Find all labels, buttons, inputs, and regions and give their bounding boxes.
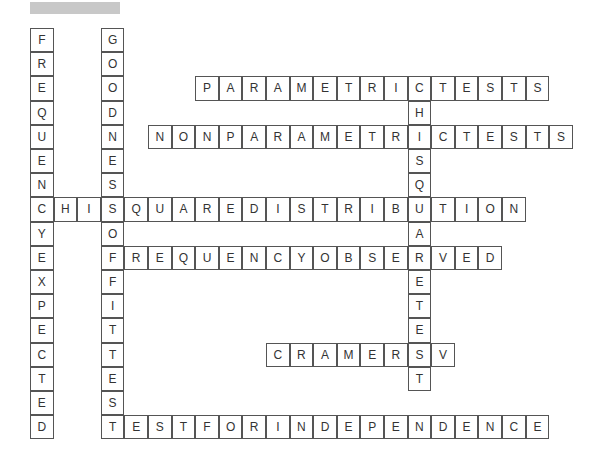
crossword-cell: E	[148, 246, 172, 270]
crossword-cell: O	[313, 246, 337, 270]
crossword-cell: T	[101, 343, 125, 367]
crossword-cell: E	[455, 76, 479, 100]
crossword-cell: C	[266, 343, 290, 367]
crossword-cell: E	[408, 270, 432, 294]
crossword-cell: I	[455, 197, 479, 221]
crossword-cell: S	[526, 76, 550, 100]
crossword-cell: E	[219, 246, 243, 270]
crossword-cell: E	[30, 318, 54, 342]
crossword-cell: E	[337, 415, 361, 439]
crossword-cell: R	[384, 343, 408, 367]
crossword-cell: N	[30, 173, 54, 197]
crossword-cell: N	[290, 415, 314, 439]
crossword-cell: S	[502, 125, 526, 149]
crossword-cell: T	[360, 125, 384, 149]
crossword-cell: O	[172, 125, 196, 149]
crossword-cell: M	[337, 343, 361, 367]
crossword-cell: F	[30, 28, 54, 52]
crossword-cell: D	[30, 415, 54, 439]
crossword-cell: I	[266, 197, 290, 221]
crossword-cell: R	[30, 52, 54, 76]
crossword-cell: E	[101, 149, 125, 173]
crossword-cell: E	[337, 125, 361, 149]
crossword-cell: T	[313, 197, 337, 221]
crossword-cell: P	[360, 415, 384, 439]
crossword-cell: E	[455, 246, 479, 270]
crossword-cell: Q	[30, 101, 54, 125]
crossword-cell: E	[101, 367, 125, 391]
crossword-cell: E	[384, 415, 408, 439]
crossword-cell: Y	[290, 246, 314, 270]
crossword-cell: T	[337, 76, 361, 100]
crossword-cell: A	[290, 125, 314, 149]
crossword-cell: A	[242, 125, 266, 149]
crossword-cell: S	[148, 415, 172, 439]
crossword-grid: FREQUENCYEXPECTEDGOODNESSOFFITTESTPARAME…	[0, 0, 605, 466]
crossword-cell: N	[101, 125, 125, 149]
crossword-cell: E	[313, 76, 337, 100]
crossword-cell: R	[195, 197, 219, 221]
crossword-cell: E	[124, 415, 148, 439]
crossword-cell: E	[384, 246, 408, 270]
crossword-cell: I	[408, 125, 432, 149]
crossword-cell: E	[408, 318, 432, 342]
crossword-cell: S	[408, 149, 432, 173]
crossword-cell: O	[101, 52, 125, 76]
crossword-cell: A	[266, 76, 290, 100]
crossword-cell: T	[30, 367, 54, 391]
crossword-cell: Y	[30, 222, 54, 246]
crossword-cell: R	[384, 125, 408, 149]
crossword-cell: D	[242, 197, 266, 221]
crossword-cell: D	[101, 101, 125, 125]
crossword-cell: B	[337, 246, 361, 270]
crossword-cell: C	[30, 197, 54, 221]
crossword-cell: A	[313, 343, 337, 367]
crossword-cell: U	[30, 125, 54, 149]
crossword-cell: I	[77, 197, 101, 221]
crossword-cell: Q	[172, 246, 196, 270]
crossword-cell: M	[313, 125, 337, 149]
crossword-cell: C	[30, 343, 54, 367]
crossword-cell: P	[219, 125, 243, 149]
crossword-cell: T	[101, 318, 125, 342]
crossword-cell: N	[242, 246, 266, 270]
crossword-cell: H	[54, 197, 78, 221]
crossword-cell: S	[478, 76, 502, 100]
crossword-cell: T	[502, 76, 526, 100]
crossword-cell: C	[408, 76, 432, 100]
crossword-cell: M	[290, 76, 314, 100]
crossword-cell: O	[478, 197, 502, 221]
crossword-cell: E	[455, 415, 479, 439]
crossword-cell: D	[431, 415, 455, 439]
crossword-cell: A	[172, 197, 196, 221]
crossword-cell: T	[101, 415, 125, 439]
crossword-cell: F	[101, 246, 125, 270]
crossword-cell: N	[502, 197, 526, 221]
crossword-cell: S	[290, 197, 314, 221]
crossword-cell: C	[431, 125, 455, 149]
crossword-cell: S	[101, 391, 125, 415]
crossword-cell: I	[101, 294, 125, 318]
crossword-cell: Q	[408, 173, 432, 197]
crossword-cell: N	[408, 415, 432, 439]
crossword-cell: C	[502, 415, 526, 439]
crossword-cell: I	[360, 197, 384, 221]
crossword-cell: V	[431, 246, 455, 270]
crossword-cell: S	[101, 197, 125, 221]
crossword-cell: V	[431, 343, 455, 367]
crossword-cell: O	[101, 222, 125, 246]
crossword-cell: S	[360, 246, 384, 270]
crossword-cell: U	[195, 246, 219, 270]
crossword-cell: D	[478, 246, 502, 270]
crossword-cell: R	[408, 246, 432, 270]
crossword-cell: T	[408, 367, 432, 391]
crossword-cell: A	[408, 222, 432, 246]
crossword-cell: E	[30, 246, 54, 270]
crossword-cell: E	[219, 197, 243, 221]
crossword-cell: E	[30, 391, 54, 415]
crossword-cell: T	[455, 125, 479, 149]
crossword-cell: X	[30, 270, 54, 294]
crossword-cell: B	[384, 197, 408, 221]
crossword-cell: N	[148, 125, 172, 149]
crossword-cell: U	[148, 197, 172, 221]
